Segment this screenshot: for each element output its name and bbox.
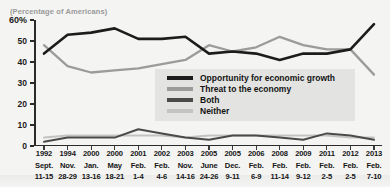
y-axis-label-50: 50 — [18, 36, 27, 46]
legend-label-both: Both — [200, 95, 219, 105]
y-axis-label-20: 20 — [18, 99, 27, 109]
x-axis-label-year: 2013 — [357, 148, 390, 160]
legend-swatch-opportunity — [167, 76, 193, 80]
legend-label-threat: Threat to the economy — [200, 84, 291, 94]
legend-item-both[interactable]: Both — [167, 95, 219, 106]
legend-item-neither[interactable]: Neither — [167, 106, 229, 117]
legend-swatch-neither — [167, 109, 193, 113]
legend-label-neither: Neither — [200, 106, 229, 116]
x-axis-label-group-14: 2013Feb.7-10 — [357, 148, 390, 183]
chart-title-clipped — [0, 0, 390, 7]
chart-container: (Percentage of Americans) 0102030405060%… — [0, 0, 390, 187]
legend-item-threat[interactable]: Threat to the economy — [167, 84, 291, 95]
x-axis-label-month: Feb. — [357, 160, 390, 172]
legend-swatch-both — [167, 98, 193, 102]
y-axis-label-40: 40 — [18, 57, 27, 67]
chart-legend: Opportunity for economic growth Threat t… — [155, 69, 355, 121]
y-axis-label-60: 60% — [9, 15, 27, 25]
legend-item-opportunity[interactable]: Opportunity for economic growth — [167, 73, 335, 84]
legend-swatch-threat — [167, 87, 193, 91]
y-axis-label-10: 10 — [18, 120, 27, 130]
series-line-opportunity-for-economic-growth — [44, 24, 374, 60]
x-axis-labels: 1992Sept.11-151994Nov.28-292000Jan.13-16… — [34, 148, 382, 187]
x-axis-label-days: 7-10 — [357, 171, 390, 183]
y-axis-label-30: 30 — [18, 78, 27, 88]
legend-label-opportunity: Opportunity for economic growth — [200, 73, 335, 83]
